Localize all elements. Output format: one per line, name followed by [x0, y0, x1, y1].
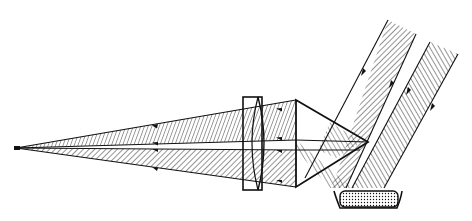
converging-beam-upper	[16, 100, 296, 148]
optical-diagram	[0, 0, 472, 221]
focal-point	[14, 146, 20, 150]
sample-holder	[334, 191, 402, 208]
